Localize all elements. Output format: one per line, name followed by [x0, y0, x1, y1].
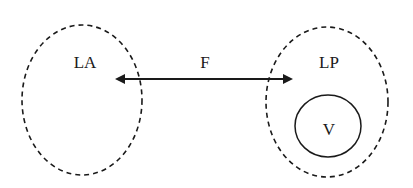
edge-f: F: [117, 53, 291, 79]
diagram-canvas: LA LP V F: [0, 0, 413, 188]
la-label: LA: [74, 53, 97, 72]
node-la: LA: [22, 25, 142, 175]
lp-label: LP: [319, 53, 339, 72]
node-v: V: [295, 95, 361, 157]
node-lp: LP: [266, 27, 388, 177]
f-label: F: [200, 53, 209, 72]
la-dashed-ellipse: [22, 25, 142, 175]
v-label: V: [323, 120, 336, 139]
lp-dashed-ellipse: [266, 27, 388, 177]
